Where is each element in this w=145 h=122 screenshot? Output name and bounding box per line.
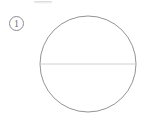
figure-page: 1 (0, 0, 145, 122)
scan-artifact-smudge (34, 1, 52, 4)
item-number-marker: 1 (9, 16, 24, 31)
figure-svg (38, 15, 138, 115)
circle-with-diameter-figure (38, 15, 138, 115)
